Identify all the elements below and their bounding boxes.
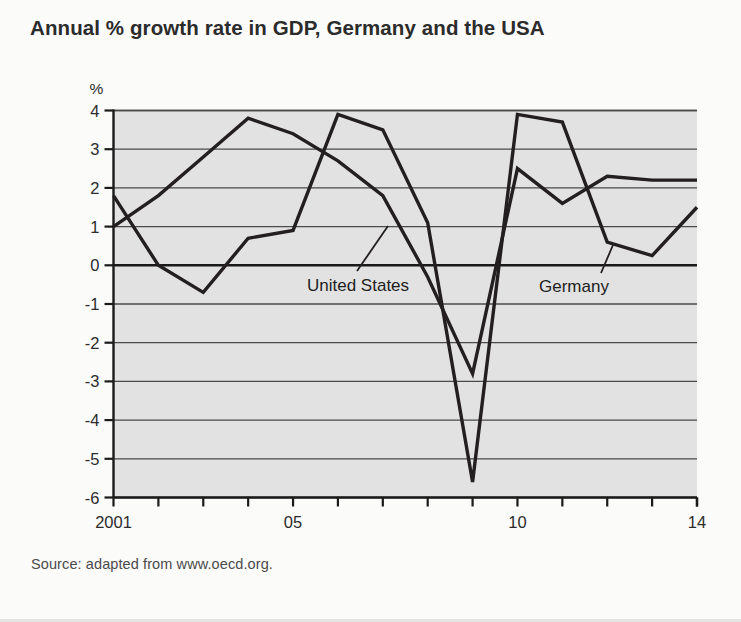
x-axis-tick-label: 2001 xyxy=(95,513,132,531)
y-axis-tick-label: 2 xyxy=(90,179,99,197)
y-axis-tick-label: 3 xyxy=(90,140,99,158)
y-axis-tick-label: 1 xyxy=(90,218,99,236)
figure-container: Annual % growth rate in GDP, Germany and… xyxy=(0,0,741,622)
x-axis-tick-label: 05 xyxy=(284,513,302,531)
chart-plot-area: 43210-1-2-3-4-5-6 2001051014 United Stat… xyxy=(0,0,741,622)
y-axis-unit-group: % xyxy=(90,80,104,97)
y-axis-tick-label: -4 xyxy=(85,411,100,429)
y-axis-tick-label: 4 xyxy=(90,102,99,120)
y-tick-group: 43210-1-2-3-4-5-6 xyxy=(85,102,114,507)
y-axis-unit-label: % xyxy=(90,80,104,97)
x-tick-group: 2001051014 xyxy=(95,498,706,531)
y-axis-tick-label: -6 xyxy=(85,489,100,507)
annotation-germany: Germany xyxy=(539,277,609,296)
x-axis-tick-label: 14 xyxy=(688,513,706,531)
y-axis-tick-label: 0 xyxy=(90,256,99,274)
y-axis-tick-label: -3 xyxy=(85,372,100,390)
y-axis-tick-label: -5 xyxy=(85,450,100,468)
x-axis-tick-label: 10 xyxy=(508,513,526,531)
line-chart-svg: 43210-1-2-3-4-5-6 2001051014 United Stat… xyxy=(0,0,741,622)
annotation-united-states: United States xyxy=(307,276,409,295)
y-axis-tick-label: -1 xyxy=(85,295,100,313)
source-note: Source: adapted from www.oecd.org. xyxy=(31,556,273,572)
y-axis-tick-label: -2 xyxy=(85,334,100,352)
